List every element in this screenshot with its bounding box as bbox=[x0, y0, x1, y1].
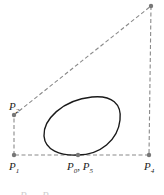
label-p1: P1 bbox=[8, 160, 19, 175]
label-p0-p5: P0, P5 bbox=[66, 160, 93, 175]
control-point-p3 bbox=[149, 4, 153, 8]
closed-curve bbox=[44, 97, 120, 155]
control-point-p4 bbox=[147, 153, 151, 157]
control-point-p1 bbox=[12, 153, 16, 157]
label-p2: P2 bbox=[8, 100, 20, 115]
cut-off-label-left: P bbox=[19, 189, 27, 195]
label-p4: P4 bbox=[143, 160, 155, 175]
polygon-edge-p3-p4 bbox=[149, 6, 151, 155]
control-point-p0-p5 bbox=[76, 153, 80, 157]
cut-off-label-mid: P bbox=[41, 189, 49, 195]
curve-diagram: P2 P1 P0, P5 P4 P P bbox=[0, 0, 164, 195]
